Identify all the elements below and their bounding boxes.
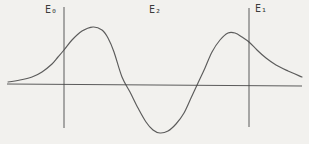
baseline-axis — [7, 84, 302, 86]
label-e2: E₂ — [149, 5, 161, 15]
wave-diagram — [0, 0, 309, 144]
wavefunction-curve — [8, 27, 302, 133]
label-e0: E₀ — [45, 5, 57, 15]
figure-canvas: E₀ E₂ E₁ — [0, 0, 309, 144]
label-e1: E₁ — [255, 4, 267, 14]
